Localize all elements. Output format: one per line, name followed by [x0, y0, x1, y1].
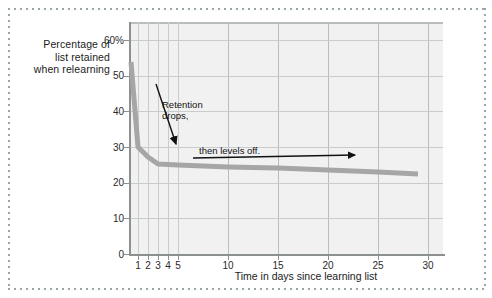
y-tick-mark-40 [124, 111, 129, 112]
x-axis-title-wrap: Time in days since learning list [0, 270, 492, 282]
y-tick-label-40: 40 [84, 106, 124, 117]
gridline-x-20 [328, 22, 329, 254]
y-tick-label-30: 30 [84, 142, 124, 153]
y-tick-mark-50 [124, 76, 129, 77]
plot-area [129, 22, 443, 254]
frame-dotted-bottom [8, 288, 486, 290]
gridline-x-5 [178, 22, 179, 254]
annotation-retention-drops: Retention drops, [162, 99, 203, 121]
figure-canvas: Percentage of list retained when relearn… [0, 0, 492, 298]
y-tick-label-60: 60% [78, 35, 124, 46]
annotation-retention-drops-line-1: Retention [162, 99, 203, 110]
plot-background [129, 22, 443, 254]
y-tick-mark-0 [124, 254, 129, 255]
x-axis-line [129, 254, 445, 256]
gridline-x-25 [378, 22, 379, 254]
gridline-x-1 [138, 22, 139, 254]
y-tick-label-10: 10 [84, 213, 124, 224]
y-axis-line [129, 22, 131, 256]
frame-dotted-right [484, 8, 486, 290]
y-tick-mark-60 [124, 40, 129, 41]
annotation-then-levels-off: then levels off. [199, 145, 260, 156]
annotation-retention-drops-line-2: drops, [162, 110, 203, 121]
x-axis-title: Time in days since learning list [235, 270, 378, 282]
gridline-x-2 [148, 22, 149, 254]
y-tick-mark-20 [124, 183, 129, 184]
gridline-x-4 [168, 22, 169, 254]
gridline-y-20 [129, 183, 443, 184]
y-tick-mark-10 [124, 218, 129, 219]
y-axis-title-line-2: list retained [18, 51, 110, 64]
gridline-x-30 [428, 22, 429, 254]
gridline-y-50 [129, 76, 443, 77]
gridline-x-3 [158, 22, 159, 254]
frame-dotted-top [8, 8, 486, 10]
annotation-then-levels-off-line-1: then levels off. [199, 145, 260, 156]
frame-dotted-left [8, 8, 10, 290]
y-tick-label-20: 20 [84, 177, 124, 188]
gridline-y-30 [129, 147, 443, 148]
gridline-y-10 [129, 218, 443, 219]
gridline-y-60 [129, 40, 443, 41]
gridline-x-10 [228, 22, 229, 254]
gridline-x-15 [278, 22, 279, 254]
y-tick-label-0: 0 [84, 249, 124, 260]
y-tick-label-50: 50 [84, 70, 124, 81]
y-tick-mark-30 [124, 147, 129, 148]
